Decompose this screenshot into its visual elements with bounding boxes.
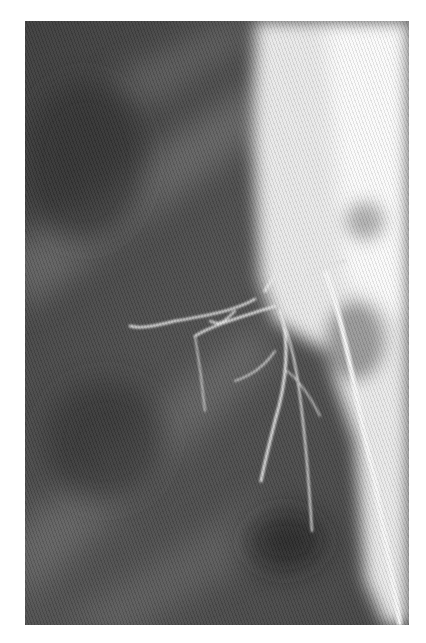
angiogram-image xyxy=(25,21,409,625)
scanline-texture xyxy=(25,21,409,625)
